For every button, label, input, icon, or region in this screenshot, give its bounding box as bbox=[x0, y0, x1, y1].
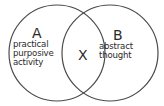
set-b-label: B bbox=[113, 28, 123, 42]
set-b-line-2: thought bbox=[99, 51, 133, 60]
intersection-label: X bbox=[78, 48, 88, 62]
set-a-description: practical purposive activity bbox=[13, 40, 54, 66]
set-a-line-3: activity bbox=[13, 58, 54, 67]
set-b-description: abstract thought bbox=[99, 42, 133, 60]
set-a-label: A bbox=[32, 26, 42, 40]
